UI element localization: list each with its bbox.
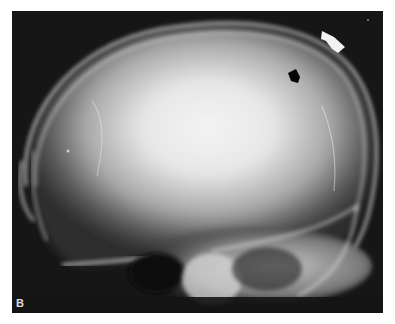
panel-label: B (16, 298, 24, 309)
radiograph-image: B (12, 11, 383, 313)
sphenoid-sinus (129, 253, 185, 293)
skull-xray (12, 11, 383, 313)
